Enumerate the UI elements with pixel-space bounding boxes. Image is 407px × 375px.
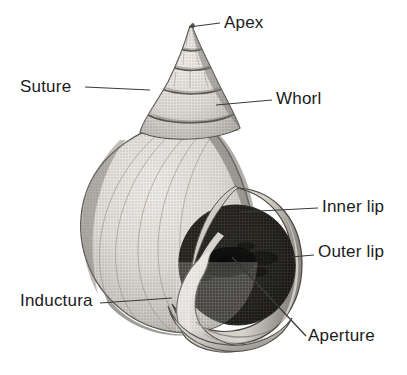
spire-shape xyxy=(130,18,255,148)
leader-suture xyxy=(85,87,150,90)
label-suture: Suture xyxy=(20,78,71,95)
label-apex: Apex xyxy=(224,14,264,31)
label-outer-lip: Outer lip xyxy=(318,243,384,260)
shell-anatomy-figure: Apex Suture Whorl Inner lip Outer lip In… xyxy=(0,0,407,375)
label-inner-lip: Inner lip xyxy=(322,198,384,215)
shell-illustration xyxy=(0,0,407,375)
label-aperture: Aperture xyxy=(308,327,375,344)
label-inductura: Inductura xyxy=(20,292,93,309)
label-whorl: Whorl xyxy=(276,90,321,107)
